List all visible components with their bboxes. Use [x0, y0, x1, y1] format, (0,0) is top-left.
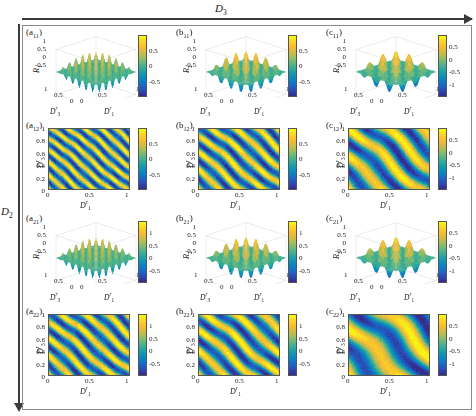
ytick-c21-0: 0: [380, 283, 384, 291]
heatmap-a22: [48, 314, 130, 376]
hm-yaxis-label-c12: Dr3: [334, 157, 346, 168]
hm-yaxis-label-b12: Dr3: [184, 157, 196, 168]
colorbar-tick-a12-1: 0: [149, 155, 153, 163]
hm-ytick-a12-4: 0.2: [24, 175, 45, 183]
colorbar-tick-c22-2: -0.5: [449, 347, 460, 355]
hm-ytick-c12-4: 0.2: [324, 175, 345, 183]
colorbar-tick-b11-2: -0.5: [299, 78, 310, 86]
panel-b12: (b12)10.80.60.40.2000.51Dr3Dr10.50-0.5: [174, 120, 324, 213]
panel-a21: (a21)R110.50-0.510.5000.51Dr3Dr110.50-0.…: [24, 213, 174, 306]
colorbar-tick-a21-2: 0: [149, 254, 153, 262]
heatmap-c12: [348, 128, 430, 190]
xaxis-label-a21: Dr3: [50, 291, 60, 303]
hm-ytick-b22-1: 0.8: [174, 323, 195, 331]
hm-xtick-c12-1: 0.5: [385, 191, 394, 199]
panel-c22: (c22)10.80.60.40.2000.51Dr3Dr10.50-0.5-1: [324, 306, 474, 399]
colorbar-tick-c12-2: -0.5: [449, 161, 460, 169]
hm-ytick-c22-0: 1: [324, 311, 345, 319]
panel-c21: (c21)R310.50-0.510.5000.51Dr3Dr10.50-0.5…: [324, 213, 474, 306]
hm-xaxis-label-b22: Dr1: [230, 385, 241, 397]
colorbar-tick-b21-1: 0.5: [299, 242, 308, 250]
ztick-a11-1: 0.5: [30, 45, 46, 53]
hm-xtick-b12-1: 0.5: [235, 191, 244, 199]
colorbar-tick-c11-1: 0: [449, 56, 453, 64]
hm-ytick-c22-1: 0.8: [324, 323, 345, 331]
colorbar-tick-b21-0: 1: [299, 229, 303, 237]
colorbar-tick-b22-1: 0.5: [299, 335, 308, 343]
panel-b21: (b21)R210.50-0.510.5000.51Dr3Dr110.50-0.…: [174, 213, 324, 306]
colorbar-tick-a12-2: -0.5: [149, 171, 160, 179]
hm-yaxis-label-b22: Dr3: [184, 343, 196, 354]
colorbar-tick-c12-3: -1: [449, 174, 455, 182]
hm-xtick-b22-1: 0.5: [235, 377, 244, 385]
xtick-a21-1: 0.5: [54, 277, 63, 285]
ztick-a21-1: 0.5: [30, 231, 46, 239]
colorbar-tick-b21-2: 0: [299, 254, 303, 262]
colorbar-tick-c21-2: -0.5: [449, 254, 460, 262]
colorbar-b21: [288, 221, 297, 283]
colorbar-tick-a22-0: 1: [149, 322, 153, 330]
hm-xtick-c22-1: 0.5: [385, 377, 394, 385]
yaxis-label-a21: Dr1: [104, 291, 114, 303]
xtick-b21-1: 0.5: [204, 277, 213, 285]
colorbar-tick-b12-0: 0.5: [299, 140, 308, 148]
surface-plot-a11: [46, 33, 146, 98]
xtick-a11-1: 0.5: [54, 91, 63, 99]
hm-ytick-a12-5: 0: [24, 187, 45, 195]
axis-arrow-d3: [22, 18, 472, 20]
colorbar-c12: [438, 128, 447, 190]
hm-ytick-c22-5: 0: [324, 373, 345, 381]
hm-yaxis-label-a22: Dr3: [34, 343, 46, 354]
ztick-b11-3: -0.5: [180, 61, 196, 69]
colorbar-tick-a22-1: 0.5: [149, 335, 158, 343]
colorbar-tick-b21-3: -0.5: [299, 267, 310, 275]
colorbar-tick-b11-0: 0.5: [299, 47, 308, 55]
hm-xtick-a12-1: 0.5: [85, 191, 94, 199]
colorbar-tick-c11-0: 0.5: [449, 43, 458, 51]
ztick-b11-1: 0.5: [180, 45, 196, 53]
colorbar-tick-c22-1: 0: [449, 335, 453, 343]
ztick-c21-2: 0: [330, 239, 346, 247]
yaxis-label-c21: Dr1: [404, 291, 414, 303]
hm-ytick-b22-5: 0: [174, 373, 195, 381]
hm-ytick-a12-0: 1: [24, 125, 45, 133]
ytick-c21-1: 0.5: [398, 277, 407, 285]
heatmap-b22: [198, 314, 280, 376]
ytick-c11-1: 0.5: [398, 91, 407, 99]
colorbar-tick-c21-1: 0: [449, 242, 453, 250]
hm-xaxis-label-a22: Dr1: [80, 385, 91, 397]
xtick-c21-0: 1: [344, 271, 348, 279]
ztick-b21-1: 0.5: [180, 231, 196, 239]
ztick-a11-0: 1: [30, 37, 46, 45]
colorbar-tick-a11-1: 0: [149, 62, 153, 70]
xtick-b21-0: 1: [194, 271, 198, 279]
colorbar-b22: [288, 314, 297, 376]
colorbar-a21: [138, 221, 147, 283]
panel-b11: (b11)R210.50-0.510.5000.51Dr3Dr10.50-0.5: [174, 27, 324, 120]
hm-ytick-c22-4: 0.2: [324, 361, 345, 369]
ztick-c21-0: 1: [330, 223, 346, 231]
panel-a12: (a12)10.80.60.40.2000.51Dr3Dr10.50-0.5: [24, 120, 174, 213]
heatmap-c22: [348, 314, 430, 376]
colorbar-tick-a21-1: 0.5: [149, 242, 158, 250]
ztick-a11-3: -0.5: [30, 61, 46, 69]
hm-ytick-b12-1: 0.8: [174, 137, 195, 145]
xtick-a11-2: 0: [70, 97, 74, 105]
colorbar-tick-c12-1: 0: [449, 149, 453, 157]
ytick-b21-0: 0: [230, 283, 234, 291]
colorbar-tick-c22-0: 0.5: [449, 322, 458, 330]
xtick-a11-0: 1: [44, 85, 48, 93]
colorbar-tick-a11-0: 0.5: [149, 47, 158, 55]
hm-xtick-b12-0: 0: [196, 191, 200, 199]
colorbar-tick-c11-3: -1: [449, 81, 455, 89]
xtick-b21-2: 0: [220, 283, 224, 291]
colorbar-tick-b22-3: -0.5: [299, 360, 310, 368]
colorbar-tick-b12-2: -0.5: [299, 171, 310, 179]
ztick-a21-3: -0.5: [30, 247, 46, 255]
hm-xtick-b22-0: 0: [196, 377, 200, 385]
hm-ytick-b22-4: 0.2: [174, 361, 195, 369]
hm-yaxis-label-c22: Dr3: [334, 343, 346, 354]
colorbar-tick-c21-0: 0.5: [449, 229, 458, 237]
heatmap-canvas-a22: [49, 315, 129, 375]
xtick-a21-0: 1: [44, 271, 48, 279]
